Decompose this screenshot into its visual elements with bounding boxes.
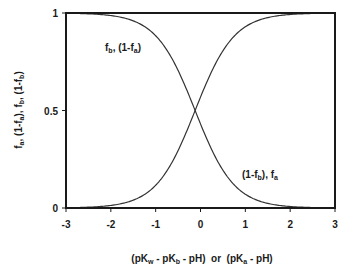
x-axis-title: (pKw - pKb - pH) or (pKa - pH) [131, 253, 272, 265]
x-axis-ticks: -3-2-10123 [62, 208, 339, 230]
y-axis-ticks: 00.51 [44, 8, 66, 214]
x-tick-label: -2 [106, 219, 115, 230]
x-tick-label: 2 [287, 219, 293, 230]
x-tick-label: 0 [198, 219, 204, 230]
x-tick-label: 1 [243, 219, 249, 230]
curve-label-fa: (1-fb), fa [242, 169, 278, 181]
y-axis-title: fa, (1-fa), fb, (1-fb) [13, 71, 25, 149]
x-tick-label: -1 [151, 219, 160, 230]
y-tick-label: 0 [52, 203, 58, 214]
x-tick-label: -3 [62, 219, 71, 230]
chart: -3-2-10123 00.51 fb, (1-fa) (1-fb), fa f… [0, 0, 354, 276]
y-tick-label: 0.5 [44, 106, 58, 117]
x-tick-label: 3 [332, 219, 338, 230]
curve-label-fb: fb, (1-fa) [105, 42, 141, 54]
y-tick-label: 1 [52, 8, 58, 19]
